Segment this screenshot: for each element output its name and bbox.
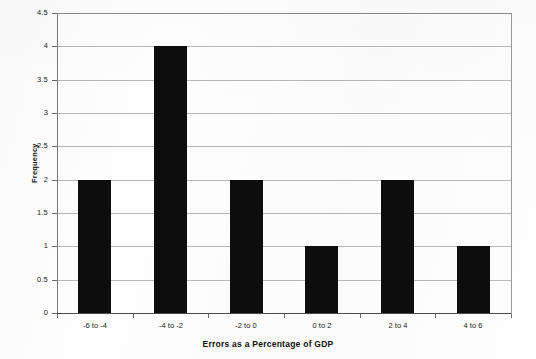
gridline xyxy=(57,180,511,181)
bar xyxy=(381,180,414,313)
y-axis-tick-label: 2 xyxy=(44,176,48,184)
gridline xyxy=(57,246,511,247)
x-axis-title: Errors as a Percentage of GDP xyxy=(0,339,536,349)
gridline xyxy=(57,213,511,214)
y-axis-tick xyxy=(52,113,57,114)
bar xyxy=(78,180,111,313)
gridline xyxy=(57,80,511,81)
y-axis-tick-label: 0.5 xyxy=(37,276,48,284)
x-axis-tick xyxy=(284,314,285,318)
x-axis-tick xyxy=(57,314,58,318)
bar xyxy=(230,180,263,313)
gridline xyxy=(57,280,511,281)
plot-area xyxy=(57,13,511,313)
gridline xyxy=(57,146,511,147)
y-axis-line xyxy=(57,13,58,314)
gridline xyxy=(57,13,511,14)
x-axis-category-label: 0 to 2 xyxy=(284,321,360,330)
y-axis-tick-label: 0 xyxy=(44,309,48,317)
x-axis-category-label: 4 to 6 xyxy=(435,321,511,330)
x-axis-tick xyxy=(511,314,512,318)
histogram-figure: 00.511.522.533.544.5 -6 to -4-4 to -2-2 … xyxy=(0,0,536,359)
y-axis-tick-label: 3.5 xyxy=(37,76,48,84)
y-axis-tick xyxy=(52,80,57,81)
gridline xyxy=(57,46,511,47)
gridline xyxy=(57,113,511,114)
y-axis-tick xyxy=(52,46,57,47)
y-axis-tick-label: 1.5 xyxy=(37,209,48,217)
y-axis-tick-label: 3 xyxy=(44,109,48,117)
plot-right-border xyxy=(511,13,512,314)
x-axis-category-label: 2 to 4 xyxy=(360,321,436,330)
y-axis-title: Frequency xyxy=(30,143,39,183)
y-axis-tick-label: 1 xyxy=(44,242,48,250)
y-axis-tick xyxy=(52,180,57,181)
y-axis-tick xyxy=(52,280,57,281)
bar xyxy=(457,246,490,313)
y-axis-tick xyxy=(52,246,57,247)
x-axis-category-label: -2 to 0 xyxy=(208,321,284,330)
y-axis-tick xyxy=(52,146,57,147)
x-axis-tick xyxy=(360,314,361,318)
x-axis-category-label: -4 to -2 xyxy=(133,321,209,330)
y-axis-tick xyxy=(52,213,57,214)
bar xyxy=(305,246,338,313)
y-axis-tick xyxy=(52,13,57,14)
x-axis-category-label: -6 to -4 xyxy=(57,321,133,330)
x-axis-tick xyxy=(208,314,209,318)
x-axis-tick xyxy=(435,314,436,318)
x-axis-tick xyxy=(133,314,134,318)
y-axis-tick-label: 4 xyxy=(44,42,48,50)
y-axis-tick-label: 4.5 xyxy=(37,9,48,17)
bar xyxy=(154,46,187,313)
